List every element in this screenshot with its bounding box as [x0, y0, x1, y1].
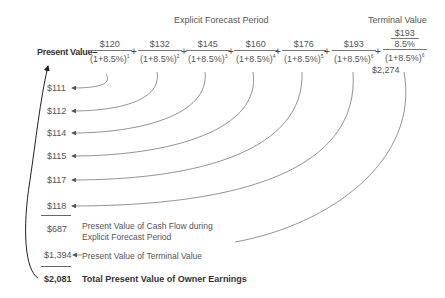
arrow-terminal — [235, 72, 406, 242]
arrow-term-6 — [72, 72, 353, 206]
arrow-term-1 — [72, 74, 108, 88]
arrow-total-to-pv — [26, 66, 48, 278]
arrow-term-5 — [72, 72, 302, 180]
arrow-term-4 — [72, 72, 254, 156]
connector-arrows — [0, 0, 445, 298]
arrow-term-3 — [72, 72, 205, 133]
arrow-term-2 — [72, 72, 157, 111]
